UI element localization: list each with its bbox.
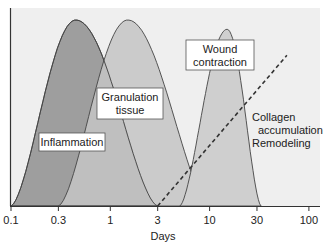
label-collagen-line1: Collagen [252,111,295,123]
label-inflammation-text: Inflammation [41,136,104,148]
label-collagen-line3: Remodeling [252,137,311,149]
x-tick-label: 3 [155,214,161,226]
x-tick-label: 30 [251,214,263,226]
label-wound-line2: contraction [193,56,247,68]
x-axis-title: Days [150,230,176,242]
label-granulation-line2: tissue [116,104,145,116]
x-tick-label: 100 [300,214,318,226]
label-inflammation: Inflammation [39,133,105,151]
x-tick-label: 0.3 [51,214,66,226]
label-granulation: Granulation tissue [97,88,163,119]
label-granulation-line1: Granulation [102,91,159,103]
chart: 0.10.3131030100 Inflammation Granulation… [0,0,326,248]
x-ticks: 0.10.3131030100 [3,206,318,226]
x-tick-label: 0.1 [3,214,18,226]
label-wound-contraction: Wound contraction [186,40,254,70]
label-wound-line1: Wound [203,43,238,55]
x-tick-label: 1 [107,214,113,226]
x-tick-label: 10 [203,214,215,226]
label-collagen-line2: accumulation [258,124,323,136]
